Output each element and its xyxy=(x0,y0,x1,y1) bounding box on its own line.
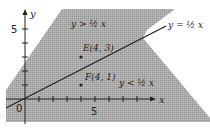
line-label: y = ½ x xyxy=(167,20,203,30)
y-tick-label-5: 5 xyxy=(11,24,17,35)
point-f-label: F(4, 1) xyxy=(84,72,116,82)
x-tick-label-5: 5 xyxy=(91,106,97,117)
x-axis-label: x xyxy=(159,94,165,105)
region-below-label: y < ½ x xyxy=(118,78,154,88)
point-f xyxy=(79,83,82,86)
y-axis-label: y xyxy=(29,8,36,19)
point-e-label: E(4, 3) xyxy=(82,43,114,53)
region-above-label: y > ½ x xyxy=(70,19,106,29)
half-plane-diagram: y x 5 5 0 y > ½ x y < ½ x y = ½ x E(4, 3… xyxy=(0,0,210,133)
point-e xyxy=(79,55,82,58)
origin-label: 0 xyxy=(16,103,22,114)
